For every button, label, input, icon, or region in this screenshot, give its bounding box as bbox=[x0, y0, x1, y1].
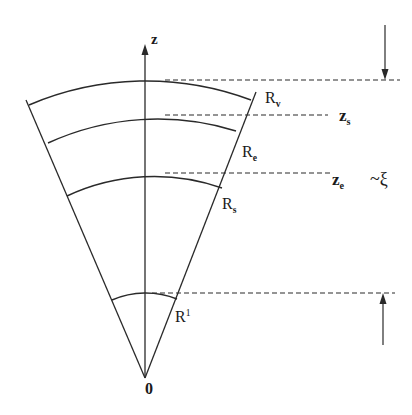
label-z-s-base: z bbox=[339, 106, 347, 125]
label-r-e-base: R bbox=[242, 143, 253, 160]
cone-edges bbox=[26, 92, 256, 378]
label-r-1-sup: 1 bbox=[186, 307, 191, 318]
label-z-e-sub: e bbox=[340, 180, 345, 191]
label-z-s: zs bbox=[339, 107, 351, 128]
right-cone-edge bbox=[145, 92, 256, 378]
label-r-v-sub: v bbox=[276, 98, 281, 109]
label-r-s-base: R bbox=[222, 195, 233, 212]
label-r-1-base: R bbox=[175, 308, 186, 325]
arc-r-v bbox=[29, 81, 251, 105]
apex-origin-label: 0 bbox=[145, 381, 153, 397]
label-r-v-base: R bbox=[265, 89, 276, 106]
xi-scale-annotation: ~ξ bbox=[370, 170, 388, 188]
label-r-1: R1 bbox=[175, 308, 190, 325]
label-r-s: Rs bbox=[222, 196, 236, 215]
down-arrow-icon bbox=[382, 69, 389, 80]
arc-r-e bbox=[48, 119, 236, 143]
axis-arrow-icon bbox=[142, 44, 149, 55]
label-z-s-sub: s bbox=[347, 116, 351, 127]
label-r-v: Rv bbox=[265, 90, 280, 109]
z-axis-label: z bbox=[151, 32, 158, 47]
label-z-e: ze bbox=[332, 171, 344, 192]
diagram-canvas bbox=[0, 0, 412, 415]
label-r-s-sub: s bbox=[233, 204, 237, 215]
label-z-e-base: z bbox=[332, 170, 340, 189]
left-cone-edge bbox=[26, 100, 145, 378]
z-axis bbox=[142, 44, 149, 378]
dashed-levels bbox=[152, 80, 400, 293]
cone-shell-diagram: z Rv zs Re ze ~ξ Rs R1 0 bbox=[0, 0, 412, 415]
up-arrow-icon bbox=[380, 293, 387, 304]
label-r-e: Re bbox=[242, 144, 257, 163]
label-r-e-sub: e bbox=[253, 152, 257, 163]
